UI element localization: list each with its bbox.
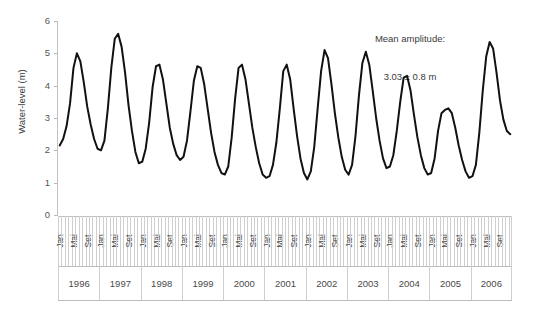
year-label: 2005 bbox=[440, 278, 461, 289]
year-cell: 2002 bbox=[306, 266, 347, 301]
year-cell: 2001 bbox=[264, 266, 305, 301]
year-label: 2001 bbox=[275, 278, 296, 289]
water-level-series bbox=[60, 34, 511, 180]
year-cell: 1998 bbox=[141, 266, 182, 301]
y-axis-label: Water-level (m) bbox=[16, 37, 27, 167]
year-label: 2006 bbox=[481, 278, 502, 289]
month-cell bbox=[509, 216, 512, 266]
year-cell: 2004 bbox=[388, 266, 429, 301]
year-label: 1999 bbox=[192, 278, 213, 289]
band-bottom-rule bbox=[58, 300, 512, 301]
year-cell: 2006 bbox=[471, 266, 512, 301]
water-level-line-svg bbox=[58, 21, 512, 215]
x-axis-label-band: JanMaiSetJanMaiSetJanMaiSetJanMaiSetJanM… bbox=[58, 216, 512, 301]
year-cell: 2003 bbox=[347, 266, 388, 301]
year-label: 2000 bbox=[234, 278, 255, 289]
year-label: 1997 bbox=[110, 278, 131, 289]
year-label: 1998 bbox=[151, 278, 172, 289]
month-label-row: JanMaiSetJanMaiSetJanMaiSetJanMaiSetJanM… bbox=[58, 216, 512, 266]
y-tick-label-3: 3 bbox=[34, 113, 50, 122]
year-cell: 1996 bbox=[58, 266, 99, 301]
y-tick-label-6: 6 bbox=[34, 16, 50, 25]
year-label: 2004 bbox=[399, 278, 420, 289]
y-tick-label-0: 0 bbox=[34, 210, 50, 219]
y-tick-label-4: 4 bbox=[34, 81, 50, 90]
y-tick-label-1: 1 bbox=[34, 178, 50, 187]
year-cell: 1997 bbox=[99, 266, 140, 301]
year-label: 2003 bbox=[357, 278, 378, 289]
chart-figure: Mean amplitude: 3.03 ± 0.8 m Water-level… bbox=[0, 0, 543, 309]
year-cell: 2005 bbox=[429, 266, 470, 301]
year-cell: 1999 bbox=[182, 266, 223, 301]
year-cell: 2000 bbox=[223, 266, 264, 301]
year-label: 1996 bbox=[69, 278, 90, 289]
y-tick-label-2: 2 bbox=[34, 145, 50, 154]
plot-area bbox=[58, 21, 512, 215]
year-label: 2002 bbox=[316, 278, 337, 289]
y-tick-label-5: 5 bbox=[34, 48, 50, 57]
year-label-row: 1996199719981999200020012002200320042005… bbox=[58, 266, 512, 301]
